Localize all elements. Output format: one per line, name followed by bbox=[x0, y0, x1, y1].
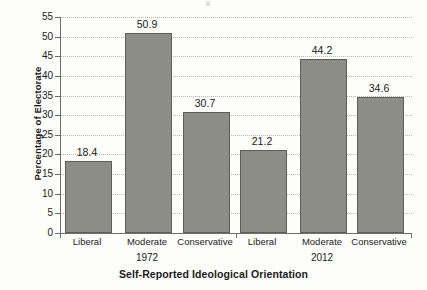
y-axis-tick-mark bbox=[55, 135, 60, 136]
y-axis-tick-mark bbox=[55, 37, 60, 38]
y-axis-tick-mark bbox=[55, 213, 60, 214]
y-axis-tick-label: 40 bbox=[33, 71, 53, 81]
y-axis-tick-label: 55 bbox=[33, 12, 53, 22]
x-axis-group-label: 2012 bbox=[282, 252, 362, 263]
bar-value-label: 50.9 bbox=[117, 19, 177, 30]
y-axis-tick-mark bbox=[55, 174, 60, 175]
bar-chart: Percentage of Electorate 051015202530354… bbox=[0, 0, 427, 290]
bar[interactable] bbox=[183, 112, 230, 233]
bar-value-label: 34.6 bbox=[349, 83, 409, 94]
y-axis-tick-label: 25 bbox=[33, 130, 53, 140]
y-axis-tick-label: 10 bbox=[33, 189, 53, 199]
x-axis-group-label: 1972 bbox=[107, 252, 187, 263]
bar[interactable] bbox=[300, 59, 347, 233]
bar[interactable] bbox=[65, 161, 112, 233]
gridline bbox=[61, 17, 412, 18]
bar-value-label: 18.4 bbox=[57, 147, 117, 158]
y-axis-tick-mark bbox=[55, 115, 60, 116]
y-axis-tick-mark bbox=[55, 76, 60, 77]
bar-value-label: 21.2 bbox=[232, 136, 292, 147]
y-axis-tick-label: 5 bbox=[33, 208, 53, 218]
gridline bbox=[61, 56, 412, 57]
y-axis-tick-mark bbox=[55, 96, 60, 97]
x-axis-category-label: Conservative bbox=[339, 236, 419, 247]
bar-value-label: 30.7 bbox=[175, 98, 235, 109]
plot-area bbox=[60, 17, 412, 233]
bar[interactable] bbox=[357, 97, 404, 233]
gridline bbox=[61, 37, 412, 38]
y-axis-tick-mark bbox=[55, 56, 60, 57]
y-axis-tick-mark bbox=[55, 194, 60, 195]
y-axis-tick-label: 35 bbox=[33, 91, 53, 101]
top-edge-artifact bbox=[206, 1, 210, 6]
y-axis-tick-mark bbox=[55, 17, 60, 18]
y-axis-tick-label: 15 bbox=[33, 169, 53, 179]
bar[interactable] bbox=[240, 150, 287, 233]
gridline bbox=[61, 76, 412, 77]
y-axis-tick-label: 30 bbox=[33, 110, 53, 120]
bar-value-label: 44.2 bbox=[292, 45, 352, 56]
y-axis-tick-label: 20 bbox=[33, 149, 53, 159]
y-axis-tick-label: 50 bbox=[33, 32, 53, 42]
bar[interactable] bbox=[125, 33, 172, 233]
y-axis-tick-label: 45 bbox=[33, 51, 53, 61]
y-axis-tick-labels: 0510152025303540455055 bbox=[0, 17, 53, 233]
x-axis-title: Self-Reported Ideological Orientation bbox=[0, 268, 427, 280]
y-axis-tick-mark bbox=[55, 233, 60, 234]
